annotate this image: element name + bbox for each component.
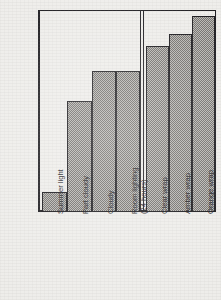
y-axis-line	[38, 10, 40, 212]
plot-top-border	[38, 10, 216, 11]
riboflavin-bar-chart: Summer lightPart cloudyCloudyRoom lighti…	[0, 0, 221, 300]
x-axis-category-labels: Summer lightPart cloudyCloudyRoom lighti…	[38, 214, 216, 280]
x-label-orange-wrap: Orange wrap	[207, 214, 221, 223]
